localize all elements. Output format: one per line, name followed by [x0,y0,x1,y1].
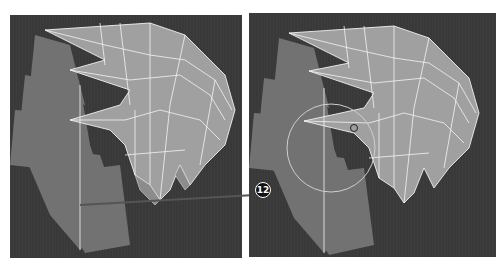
hair-mesh-after [249,13,496,257]
step-number-badge: 12 [255,182,271,198]
hair-mesh-before [10,15,242,258]
viewport-before [10,15,242,258]
viewport-after [249,13,496,257]
